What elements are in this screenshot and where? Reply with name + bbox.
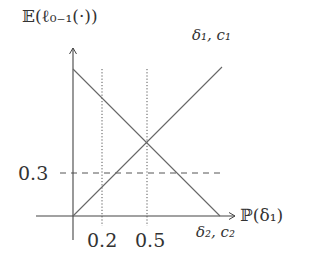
ascending-line-label: δ₁, c₁ <box>192 28 231 43</box>
y-tick-0.3: 0.3 <box>18 164 48 183</box>
x-tick-0.2: 0.2 <box>87 231 117 250</box>
x-axis-label: ℙ(δ₁) <box>240 207 283 224</box>
x-tick-0.5: 0.5 <box>135 231 165 250</box>
descending-line-label: δ₂, c₂ <box>196 225 235 240</box>
y-axis-label: 𝔼(ℓ₀₋₁(·)) <box>22 8 98 25</box>
diagram-canvas <box>0 0 311 267</box>
